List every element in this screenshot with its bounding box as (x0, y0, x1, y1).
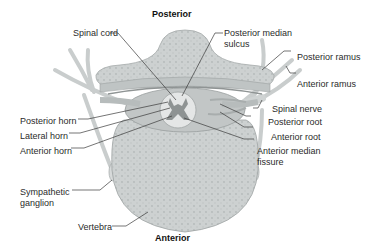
spinal-cord-label: Spinal cord (73, 28, 118, 38)
anterior-label: Anterior (155, 233, 190, 243)
anterior-horn-label: Anterior horn (20, 146, 72, 156)
vertebra-label: Vertebra (78, 222, 112, 232)
sympathetic-ganglion-label-1: Sympathetic (20, 187, 70, 197)
posterior-horn-label: Posterior horn (20, 116, 77, 126)
anterior-root-label: Anterior root (271, 132, 321, 142)
posterior-median-sulcus-label-2: sulcus (224, 39, 250, 49)
left-roots (100, 100, 140, 104)
posterior-ramus-label: Posterior ramus (297, 52, 361, 62)
lateral-horn-label: Lateral horn (20, 131, 68, 141)
anterior-median-fissure-label-1: Anterior median (257, 146, 321, 156)
posterior-median-sulcus-label-1: Posterior median (224, 28, 292, 38)
posterior-root-label: Posterior root (268, 117, 322, 127)
vertebral-body (112, 120, 259, 232)
sympathetic-ganglion-label-2: ganglion (20, 198, 54, 208)
anterior-median-fissure-label-2: fissure (257, 157, 284, 167)
posterior-label: Posterior (152, 9, 192, 19)
spinal-nerve-label: Spinal nerve (272, 104, 322, 114)
anterior-ramus-label: Anterior ramus (297, 79, 356, 89)
right-roots (222, 102, 258, 105)
